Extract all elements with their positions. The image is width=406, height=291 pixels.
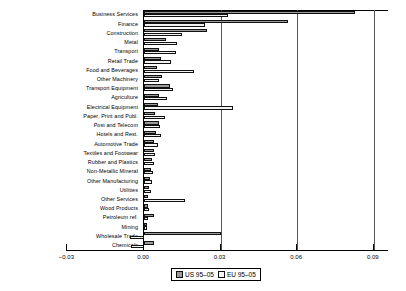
category-label: Hotels and Rest. (97, 131, 138, 137)
bar-row (144, 38, 389, 47)
category-label: Business Services (92, 11, 138, 17)
x-tick-label: 0.09 (367, 253, 379, 261)
bar-eu (144, 143, 158, 146)
bar-row (144, 112, 389, 121)
category-label: Post and Telecom (94, 122, 138, 128)
bar-eu (144, 226, 147, 229)
bar-chart: Business ServicesFinanceConstructionMeta… (0, 0, 406, 291)
bar-row (144, 213, 389, 222)
legend-label: EU 95–05 (227, 270, 256, 279)
bar-row (144, 10, 389, 19)
bar-row (144, 158, 389, 167)
category-label: Paper, Print and Publ. (83, 113, 138, 119)
bar-row (144, 222, 389, 231)
bar-eu (144, 125, 160, 128)
x-tick (66, 244, 67, 250)
category-label: Textiles and Footwear (83, 150, 138, 156)
bar-eu (144, 134, 161, 137)
bar-row (144, 84, 389, 93)
bar-eu (144, 42, 177, 45)
bar-eu (144, 162, 154, 165)
bar-eu (144, 88, 173, 91)
bar-row (144, 47, 389, 56)
bar-row (144, 195, 389, 204)
bar-row (144, 121, 389, 130)
x-tick (220, 244, 221, 250)
bar-eu (144, 106, 233, 109)
bar-row (144, 102, 389, 111)
bar-row (144, 93, 389, 102)
bar-row (144, 139, 389, 148)
category-label: Metal (124, 39, 138, 45)
bar-row (144, 148, 389, 157)
plot-area (143, 10, 389, 250)
bar-row (144, 167, 389, 176)
category-label: Other Manufacturing (87, 178, 138, 184)
bar-row (144, 185, 389, 194)
bar-row (144, 204, 389, 213)
bar-eu (144, 70, 194, 73)
category-label: Agriculture (111, 94, 138, 100)
category-label: Utilities (120, 187, 138, 193)
bar-eu (144, 51, 176, 54)
bar-eu (144, 116, 165, 119)
category-label: Food and Beverages (86, 67, 138, 73)
bar-eu (144, 153, 155, 156)
bar-row (144, 56, 389, 65)
x-tick-label: −0.03 (59, 253, 74, 261)
x-tick-label: 0.00 (137, 253, 149, 261)
x-axis-line-left (66, 250, 143, 251)
x-tick (373, 244, 374, 250)
category-label: Rubber and Plastics (88, 159, 138, 165)
category-label: Transport Equipment (86, 85, 138, 91)
bar-eu (144, 14, 228, 17)
category-label: Mining (122, 224, 138, 230)
x-tick-label: 0.03 (214, 253, 226, 261)
x-axis-line (143, 250, 388, 251)
category-label: Retail Trade (108, 58, 138, 64)
category-label: Electrical Equipment (87, 104, 138, 110)
bar-eu (144, 199, 185, 202)
category-label: Finance (118, 21, 138, 27)
bar-row (144, 241, 389, 250)
legend-label: US 95–05 (185, 270, 214, 279)
bar-eu (144, 190, 151, 193)
bar-eu (144, 180, 152, 183)
x-tick (296, 244, 297, 250)
bar-row (144, 65, 389, 74)
x-tick (143, 244, 144, 250)
category-label: Wood Products (100, 205, 138, 211)
bar-row (144, 232, 389, 241)
bar-us (144, 232, 221, 235)
category-label: Construction (107, 30, 138, 36)
bar-row (144, 28, 389, 37)
category-label: Automotive Trade (94, 141, 138, 147)
category-label: Transport (114, 48, 138, 54)
legend-swatch-us (176, 271, 183, 278)
bar-row (144, 176, 389, 185)
category-label: Non-Metallic Mineral (87, 168, 138, 174)
bar-eu (144, 208, 149, 211)
bar-eu (144, 217, 148, 220)
bar-eu (144, 171, 153, 174)
category-label: Other Services (101, 196, 138, 202)
x-tick-label: 0.06 (290, 253, 302, 261)
bar-eu (144, 97, 167, 100)
bar-eu (144, 60, 171, 63)
bar-eu (144, 33, 182, 36)
category-label: Petroleum ref. (103, 214, 138, 220)
bar-row (144, 19, 389, 28)
bar-row (144, 130, 389, 139)
legend-entry: EU 95–05 (218, 270, 256, 279)
category-axis: Business ServicesFinanceConstructionMeta… (0, 10, 142, 250)
category-label: Other Machinery (97, 76, 138, 82)
bar-eu (144, 79, 159, 82)
bar-us (144, 241, 154, 244)
bar-row (144, 75, 389, 84)
bar-eu (144, 23, 205, 26)
bar-eu (130, 236, 144, 239)
legend-swatch-eu (218, 271, 225, 278)
legend-entry: US 95–05 (176, 270, 214, 279)
chart-legend: US 95–05EU 95–05 (171, 268, 261, 281)
